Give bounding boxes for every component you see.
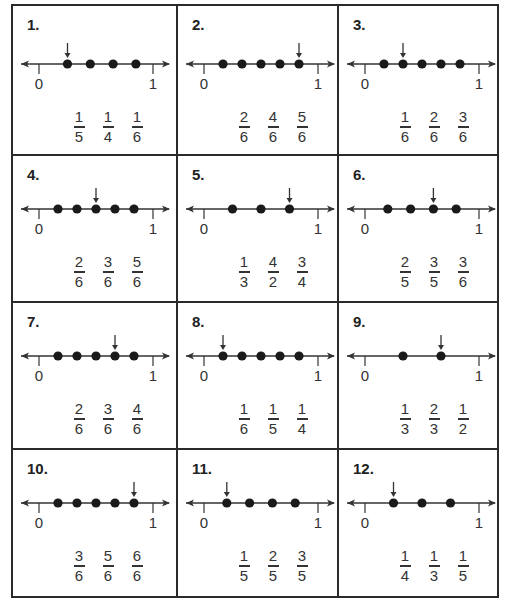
fraction-choice[interactable]: 15 — [265, 401, 281, 437]
denominator: 6 — [133, 421, 141, 437]
fraction-choice[interactable]: 13 — [397, 401, 413, 437]
fraction-choice[interactable]: 16 — [236, 401, 252, 437]
fraction-choice[interactable]: 14 — [100, 109, 116, 145]
number-line-dot — [91, 351, 100, 360]
tick-label-one: 1 — [314, 75, 322, 92]
denominator: 6 — [240, 421, 248, 437]
fraction-choice[interactable]: 12 — [455, 401, 471, 437]
number-line-dot — [417, 498, 426, 507]
denominator: 6 — [75, 568, 83, 584]
denominator: 5 — [269, 568, 277, 584]
problem-cell: 3.01162636 — [339, 6, 499, 154]
numerator: 2 — [75, 254, 83, 270]
fraction-choice[interactable]: 26 — [71, 254, 87, 290]
denominator: 3 — [401, 421, 409, 437]
fraction-choice[interactable]: 25 — [265, 548, 281, 584]
fraction-choice[interactable]: 36 — [455, 254, 471, 290]
fraction-choice[interactable]: 15 — [236, 548, 252, 584]
fraction-choice[interactable]: 15 — [71, 109, 87, 145]
down-arrow-icon — [296, 53, 302, 58]
numerator: 5 — [104, 548, 112, 564]
denominator: 5 — [401, 274, 409, 290]
numerator: 3 — [75, 548, 83, 564]
fraction-choice[interactable]: 16 — [129, 109, 145, 145]
tick-label-one: 1 — [475, 514, 483, 531]
numerator: 1 — [430, 548, 438, 564]
fraction-choice[interactable]: 23 — [426, 401, 442, 437]
fraction-choice[interactable]: 35 — [294, 548, 310, 584]
numerator: 2 — [430, 109, 438, 125]
fraction-choice[interactable]: 15 — [455, 548, 471, 584]
fraction-choice[interactable]: 13 — [236, 254, 252, 290]
worksheet-grid: 1.011514162.012646563.011626364.01263656… — [11, 4, 499, 598]
numerator: 2 — [269, 548, 277, 564]
number-line-dot — [131, 59, 140, 68]
numerator: 3 — [104, 254, 112, 270]
fraction-choice[interactable]: 56 — [129, 254, 145, 290]
fraction-choice[interactable]: 25 — [397, 254, 413, 290]
tick-label-one: 1 — [475, 367, 483, 384]
denominator: 6 — [133, 129, 141, 145]
number-line-dot — [53, 351, 62, 360]
denominator: 2 — [269, 274, 277, 290]
fraction-choice[interactable]: 34 — [294, 254, 310, 290]
tick-label-zero: 0 — [35, 75, 43, 92]
fraction-choice[interactable]: 26 — [426, 109, 442, 145]
fraction-choice[interactable]: 46 — [265, 109, 281, 145]
fraction-choice[interactable]: 56 — [294, 109, 310, 145]
number-line-dot — [398, 351, 407, 360]
fraction-choice[interactable]: 42 — [265, 254, 281, 290]
number-line-dot — [455, 59, 464, 68]
fraction-choice[interactable]: 36 — [100, 401, 116, 437]
fraction-choice[interactable]: 14 — [294, 401, 310, 437]
denominator: 6 — [104, 568, 112, 584]
fraction-choice[interactable]: 26 — [236, 109, 252, 145]
problem-cell: 5.01134234 — [178, 156, 337, 301]
denominator: 5 — [298, 568, 306, 584]
down-arrow-icon — [438, 345, 444, 350]
problem-cell: 1.01151416 — [13, 6, 176, 154]
fraction-choice[interactable]: 16 — [397, 109, 413, 145]
fraction-choice[interactable]: 56 — [100, 548, 116, 584]
number-line-dot — [275, 59, 284, 68]
fraction-choice[interactable]: 46 — [129, 401, 145, 437]
number-line-dot — [110, 351, 119, 360]
down-arrow-icon — [430, 198, 436, 203]
fraction-choice[interactable]: 36 — [71, 548, 87, 584]
fraction-choice[interactable]: 13 — [426, 548, 442, 584]
numerator: 3 — [459, 109, 467, 125]
number-line-dot — [446, 498, 455, 507]
fraction-choice[interactable]: 36 — [455, 109, 471, 145]
tick-label-one: 1 — [149, 220, 157, 237]
fraction-choice[interactable]: 36 — [100, 254, 116, 290]
tick-label-one: 1 — [149, 514, 157, 531]
numerator: 1 — [298, 401, 306, 417]
denominator: 5 — [269, 421, 277, 437]
fraction-choice[interactable]: 14 — [397, 548, 413, 584]
problem-cell: 9.01132312 — [339, 303, 499, 448]
denominator: 6 — [298, 129, 306, 145]
number-line-dot — [256, 204, 265, 213]
numerator: 4 — [269, 109, 277, 125]
fraction-choice[interactable]: 26 — [71, 401, 87, 437]
tick-label-one: 1 — [149, 367, 157, 384]
denominator: 3 — [430, 568, 438, 584]
number-line-dot — [429, 204, 438, 213]
denominator: 6 — [459, 274, 467, 290]
number-line: 01 — [13, 156, 176, 256]
numerator: 1 — [240, 548, 248, 564]
fraction-choice[interactable]: 35 — [426, 254, 442, 290]
number-line-dot — [91, 204, 100, 213]
tick-label-zero: 0 — [200, 220, 208, 237]
denominator: 6 — [430, 129, 438, 145]
fraction-choice[interactable]: 66 — [129, 548, 145, 584]
number-line-dot — [436, 59, 445, 68]
number-line-dot — [72, 204, 81, 213]
number-line-dot — [218, 59, 227, 68]
numerator: 2 — [401, 254, 409, 270]
denominator: 6 — [104, 274, 112, 290]
number-line-dot — [86, 59, 95, 68]
tick-label-one: 1 — [314, 514, 322, 531]
number-line-dot — [237, 351, 246, 360]
numerator: 1 — [240, 254, 248, 270]
